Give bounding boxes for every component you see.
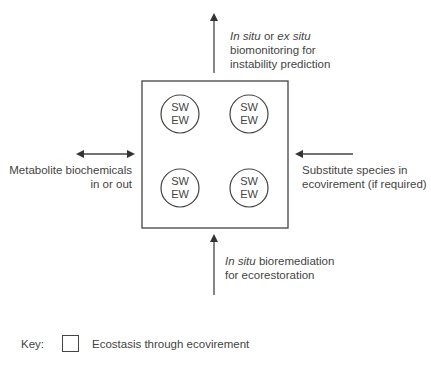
key-box-icon [62,335,79,352]
circle-text-bottom-left: SW EW [161,175,199,201]
bottom-label-line2: for ecorestoration [225,268,334,282]
circle-label-ew: EW [161,114,199,127]
key-description: Ecostasis through ecovirement [92,337,249,351]
left-label-line2: in or out [4,177,132,191]
circle-label-sw: SW [230,175,268,188]
top-label-line3: instability prediction [230,57,330,71]
circle-label-ew: EW [230,188,268,201]
right-label-line1: Substitute species in [302,163,427,177]
top-label-italic-in-situ: In situ [230,30,261,42]
right-label-line2: ecovirement (if required) [302,177,427,191]
bottom-label-italic-in-situ: In situ [225,255,256,267]
circle-label-sw: SW [161,175,199,188]
circle-label-sw: SW [230,101,268,114]
circle-label-ew: EW [230,114,268,127]
top-label-or: or [261,30,278,42]
circle-text-top-right: SW EW [230,101,268,127]
left-label: Metabolite biochemicals in or out [4,163,132,191]
top-label-italic-ex-situ: ex situ [277,30,310,42]
right-label: Substitute species in ecovirement (if re… [302,163,427,191]
circle-text-bottom-right: SW EW [230,175,268,201]
circle-label-sw: SW [161,101,199,114]
key-label: Key: [21,337,44,351]
circle-label-ew: EW [161,188,199,201]
left-label-line1: Metabolite biochemicals [4,163,132,177]
circle-text-top-left: SW EW [161,101,199,127]
top-label: In situ or ex situ biomonitoring for ins… [230,29,330,71]
top-label-line2: biomonitoring for [230,43,330,57]
bottom-label-rest: bioremediation [256,255,335,267]
bottom-label: In situ bioremediation for ecorestoratio… [225,254,334,282]
